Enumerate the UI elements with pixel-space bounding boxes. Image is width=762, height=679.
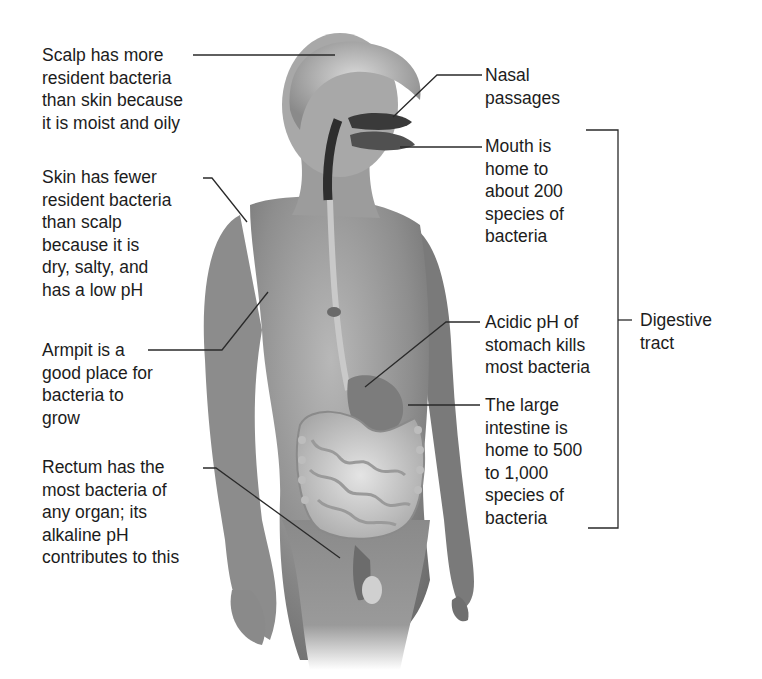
intestines <box>297 412 424 539</box>
label-rectum: Rectum has the most bacteria of any orga… <box>42 456 179 569</box>
label-mouth: Mouth is home to about 200 species of ba… <box>485 135 564 248</box>
label-digestive-tract: Digestive tract <box>640 309 712 354</box>
label-nasal-passages: Nasal passages <box>485 64 560 109</box>
label-skin: Skin has fewer resident bacteria than sc… <box>42 166 171 301</box>
body-silhouette <box>204 33 474 670</box>
label-large-intestine: The large intestine is home to 500 to 1,… <box>485 394 582 529</box>
leader-line-skin <box>203 178 247 222</box>
label-armpit: Armpit is a good place for bacteria to g… <box>42 339 153 429</box>
label-scalp: Scalp has more resident bacteria than sk… <box>42 44 183 134</box>
digestive-tract-bracket <box>586 130 618 528</box>
label-stomach: Acidic pH of stomach kills most bacteria <box>485 311 590 379</box>
